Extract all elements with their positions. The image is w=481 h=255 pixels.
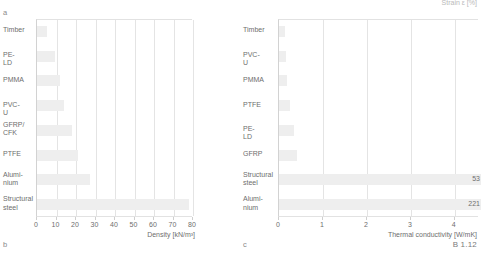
density-plot-area <box>36 19 192 217</box>
x-tick-mark <box>36 217 37 220</box>
bar <box>279 174 481 185</box>
bar <box>279 199 481 210</box>
x-tick-label: 60 <box>149 221 157 228</box>
bar-value-label: 221 <box>468 200 480 207</box>
gridline <box>96 20 97 216</box>
category-label: PE-LD <box>3 51 15 67</box>
x-tick-label: 2 <box>364 221 368 228</box>
bar <box>37 100 64 111</box>
x-tick-label: 1 <box>320 221 324 228</box>
bar <box>37 26 47 37</box>
x-tick-mark <box>192 217 193 220</box>
x-tick-label: 70 <box>169 221 177 228</box>
category-label: PVC-U <box>3 101 20 117</box>
x-tick-label: 10 <box>52 221 60 228</box>
category-label: Structural steel <box>3 195 33 211</box>
bar <box>279 26 285 37</box>
category-label: PE-LD <box>243 125 255 141</box>
bar <box>279 51 286 62</box>
x-tick-mark <box>56 217 57 220</box>
thermal-x-axis-title: Thermal conductivity [W/mK] <box>388 231 477 238</box>
x-tick-label: 80 <box>188 221 196 228</box>
gridline <box>455 20 456 216</box>
x-tick-mark <box>153 217 154 220</box>
thermal-plot-area <box>278 19 478 217</box>
x-tick-label: 30 <box>91 221 99 228</box>
x-tick-label: 20 <box>71 221 79 228</box>
category-label: GFRP <box>243 150 262 158</box>
category-label: PMMA <box>243 76 264 84</box>
bar <box>37 75 60 86</box>
chart-thermal-conductivity: TimberPVC-UPMMAPTFEPE-LDGFRPStructural s… <box>240 0 480 255</box>
category-label: Timber <box>3 26 25 34</box>
category-label: Alumi- nium <box>243 195 263 211</box>
bar <box>37 125 72 136</box>
gridline <box>76 20 77 216</box>
x-tick-label: 40 <box>110 221 118 228</box>
x-tick-mark <box>278 217 279 220</box>
x-tick-mark <box>366 217 367 220</box>
bar <box>279 150 297 161</box>
density-x-axis-title: Density [kN/m³] <box>147 231 195 238</box>
x-tick-mark <box>173 217 174 220</box>
x-tick-label: 0 <box>34 221 38 228</box>
x-tick-mark <box>95 217 96 220</box>
x-tick-label: 3 <box>408 221 412 228</box>
x-tick-mark <box>134 217 135 220</box>
x-tick-mark <box>454 217 455 220</box>
x-tick-mark <box>75 217 76 220</box>
category-label: Structural steel <box>243 171 273 187</box>
bar <box>279 100 290 111</box>
gridline <box>154 20 155 216</box>
x-tick-label: 0 <box>276 221 280 228</box>
x-tick-mark <box>410 217 411 220</box>
chart-density: TimberPE-LDPMMAPVC-UGFRP/ CFKPTFEAlumi- … <box>0 0 240 255</box>
category-label: PTFE <box>3 150 21 158</box>
bar <box>279 125 294 136</box>
bar <box>37 174 90 185</box>
gridline <box>411 20 412 216</box>
x-tick-mark <box>322 217 323 220</box>
category-label: Timber <box>243 26 265 34</box>
gridline <box>323 20 324 216</box>
gridline <box>57 20 58 216</box>
category-label: PMMA <box>3 76 24 84</box>
category-label: PVC-U <box>243 51 260 67</box>
category-label: Alumi- nium <box>3 171 23 187</box>
bar <box>37 199 189 210</box>
gridline <box>135 20 136 216</box>
x-tick-label: 4 <box>452 221 456 228</box>
gridline <box>115 20 116 216</box>
x-tick-label: 50 <box>130 221 138 228</box>
bar <box>37 150 78 161</box>
x-tick-mark <box>114 217 115 220</box>
gridline <box>193 20 194 216</box>
gridline <box>174 20 175 216</box>
category-label: GFRP/ CFK <box>3 121 24 137</box>
bar <box>279 75 287 86</box>
gridline <box>367 20 368 216</box>
bar <box>37 51 55 62</box>
category-label: PTFE <box>243 101 261 109</box>
bar-value-label: 53 <box>472 175 480 182</box>
